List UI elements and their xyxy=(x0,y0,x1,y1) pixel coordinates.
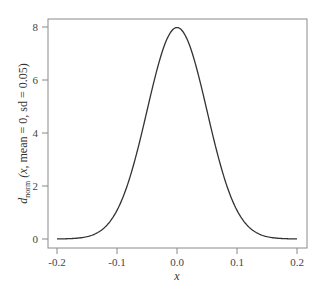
y-tick-label: 4 xyxy=(33,127,39,139)
x-tick-label: 0.0 xyxy=(170,256,184,268)
x-axis: -0.2-0.10.00.10.2 xyxy=(48,248,304,268)
y-tick-label: 8 xyxy=(33,21,39,33)
x-tick-label: -0.2 xyxy=(48,256,65,268)
x-axis-title: x xyxy=(173,269,180,283)
x-tick-label: 0.2 xyxy=(290,256,304,268)
y-axis: 02468 xyxy=(33,21,49,245)
chart-canvas: 02468 -0.2-0.10.00.10.2 x dnorm (x, mean… xyxy=(0,0,323,292)
density-curve xyxy=(57,28,297,239)
x-tick-label: 0.1 xyxy=(230,256,244,268)
y-tick-label: 0 xyxy=(33,233,39,245)
y-tick-label: 6 xyxy=(33,74,39,86)
plot-frame xyxy=(48,19,307,248)
x-tick-label: -0.1 xyxy=(108,256,125,268)
svg-text:dnorm (x, mean = 0, sd = 0.05): dnorm (x, mean = 0, sd = 0.05) xyxy=(16,63,32,203)
y-tick-label: 2 xyxy=(33,180,39,192)
y-axis-title: dnorm (x, mean = 0, sd = 0.05) xyxy=(16,63,32,203)
